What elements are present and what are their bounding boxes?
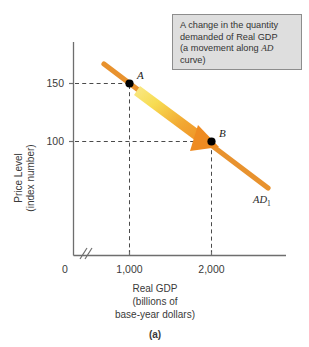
callout-line-3-emphasis: AD (261, 43, 273, 53)
y-axis-title-line2: (index number) (25, 144, 36, 211)
callout-line-3-prefix: (a movement along (180, 43, 261, 53)
y-tick-label-150: 150 (46, 77, 64, 89)
y-tick-label-100: 100 (46, 135, 64, 147)
callout-line-2: demanded of Real GDP (180, 32, 278, 42)
x-axis-title-line2: (billions of (132, 296, 177, 307)
x-axis-title-line1: Real GDP (132, 283, 177, 294)
callout-line-1: A change in the quantity (180, 20, 278, 30)
origin-label: 0 (62, 263, 68, 275)
data-point-a (125, 79, 133, 87)
data-point-b (207, 137, 215, 145)
callout-text: A change in the quantitydemanded of Real… (180, 20, 295, 66)
axis-break-icon (80, 248, 92, 259)
ad1-curve-label: AD1 (252, 194, 271, 208)
data-point-b-label: B (219, 127, 226, 139)
figure-panel-a: A B AD1 150 100 0 1,000 2,000 Price Leve… (0, 0, 309, 347)
x-tick-label-1000: 1,000 (116, 263, 142, 275)
annotation-callout-box: A change in the quantitydemanded of Real… (172, 14, 302, 70)
x-axis-title-line3: base-year dollars) (115, 309, 195, 320)
callout-line-4: curve) (180, 55, 206, 65)
panel-label: (a) (149, 329, 161, 340)
x-tick-label-2000: 2,000 (198, 263, 224, 275)
y-axis-title-line1: Price Level (13, 153, 24, 202)
data-point-a-label: A (136, 69, 144, 81)
